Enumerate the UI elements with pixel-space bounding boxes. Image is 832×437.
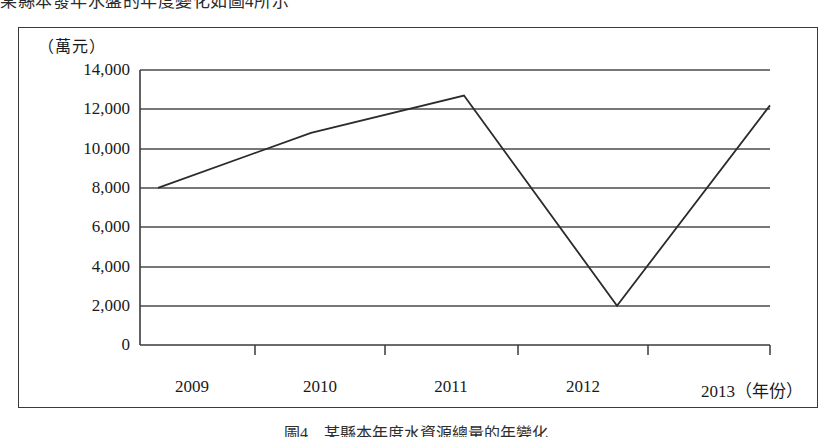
x-tick-2012: 2012 <box>566 377 600 397</box>
figure-caption: 圖4 某縣本年度水資源總量的年變化 <box>0 420 832 437</box>
figure-frame <box>18 27 818 408</box>
x-tick-2013: 2013（年份） <box>701 377 803 402</box>
x-axis-unit-label: （年份） <box>735 382 803 401</box>
y-axis-unit-label: （萬元） <box>38 33 106 57</box>
x-tick-2010: 2010 <box>303 377 337 397</box>
x-tick-2009: 2009 <box>175 377 209 397</box>
x-tick-2013-year: 2013 <box>701 382 735 401</box>
x-tick-2011: 2011 <box>434 377 467 397</box>
clipped-headline-text: 某縣本發年水盤的年度變化如圖4所示 <box>0 0 420 9</box>
